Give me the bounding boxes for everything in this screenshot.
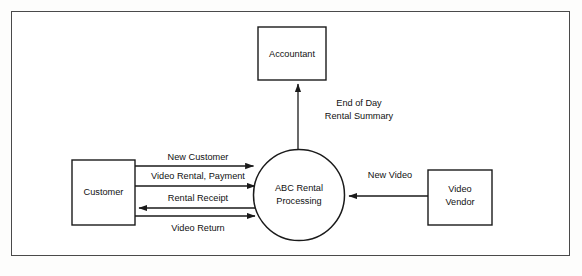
video-vendor-label-line1: Video — [448, 184, 471, 194]
video-return-label: Video Return — [171, 223, 224, 233]
flow-new-customer[interactable]: New Customer — [135, 152, 254, 166]
customer-label: Customer — [84, 187, 124, 197]
new-customer-label: New Customer — [168, 152, 229, 162]
entity-accountant[interactable]: Accountant — [258, 27, 326, 80]
end-of-day-summary-label-line2: Rental Summary — [325, 111, 394, 121]
flow-video-return[interactable]: Video Return — [135, 216, 255, 233]
entity-customer[interactable]: Customer — [72, 160, 135, 225]
end-of-day-summary-label-line1: End of Day — [336, 98, 382, 108]
flow-video-rental-payment[interactable]: Video Rental, Payment — [135, 171, 255, 186]
new-video-label: New Video — [368, 170, 412, 180]
video-vendor-label-line2: Vendor — [445, 197, 474, 207]
abc-rental-processing-label-line2: Processing — [276, 196, 321, 206]
data-flow-diagram: Accountant End of Day Rental Summary ABC… — [0, 0, 582, 276]
flow-end-of-day-rental-summary[interactable]: End of Day Rental Summary — [298, 84, 394, 150]
rental-receipt-label: Rental Receipt — [168, 193, 229, 203]
process-abc-rental-processing[interactable]: ABC Rental Processing — [254, 150, 345, 241]
flow-rental-receipt[interactable]: Rental Receipt — [139, 193, 255, 208]
flow-new-video[interactable]: New Video — [349, 170, 428, 196]
abc-rental-processing-label-line1: ABC Rental — [275, 183, 323, 193]
diagram-canvas: Accountant End of Day Rental Summary ABC… — [0, 0, 582, 276]
accountant-label: Accountant — [269, 49, 315, 59]
video-rental-payment-label: Video Rental, Payment — [151, 171, 245, 181]
entity-video-vendor[interactable]: Video Vendor — [428, 170, 492, 225]
